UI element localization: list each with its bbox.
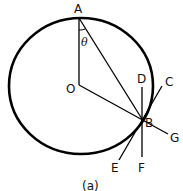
caption: (a)	[82, 179, 99, 191]
geometry-diagram: A θ O D C B G E F (a)	[0, 0, 183, 191]
line-og	[79, 85, 168, 134]
label-d: D	[137, 72, 146, 86]
label-b: B	[145, 116, 153, 130]
angle-arc	[79, 29, 85, 30]
label-e: E	[111, 161, 119, 175]
segment-ab	[79, 18, 142, 119]
label-g: G	[170, 131, 179, 145]
label-theta: θ	[81, 36, 88, 49]
label-f: F	[138, 161, 145, 175]
label-o: O	[66, 82, 75, 96]
label-a: A	[74, 2, 83, 16]
tangent-ce	[119, 86, 162, 160]
label-c: C	[165, 75, 173, 89]
diagram-figure: A θ O D C B G E F (a)	[0, 0, 183, 191]
